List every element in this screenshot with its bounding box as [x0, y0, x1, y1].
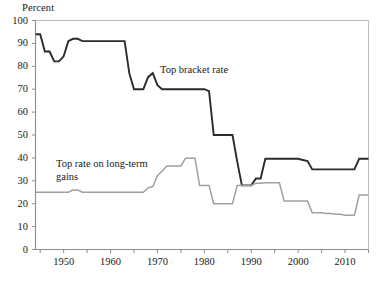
y-tick-label: 30	[2, 175, 28, 186]
y-tick-label: 50	[2, 129, 28, 140]
y-tick-label: 70	[2, 83, 28, 94]
y-tick-label: 10	[2, 221, 28, 232]
x-tick-label: 1960	[91, 256, 131, 267]
x-tick-label: 1990	[231, 256, 271, 267]
y-tick-label: 80	[2, 60, 28, 71]
y-tick-label: 90	[2, 37, 28, 48]
y-tick-label: 0	[2, 244, 28, 255]
y-tick-label: 60	[2, 106, 28, 117]
x-tick-label: 1980	[184, 256, 224, 267]
x-tick-label: 1950	[44, 256, 84, 267]
y-tick-label: 40	[2, 152, 28, 163]
y-tick-label: 20	[2, 198, 28, 209]
y-tick-label: 100	[2, 15, 28, 26]
annotation-top-bracket-rate: Top bracket rate	[160, 64, 228, 77]
chart-container: Percent 0102030405060708090100 195019601…	[0, 0, 387, 282]
x-tick-label: 2010	[325, 256, 365, 267]
annotation-top-rate-long-term-gains: Top rate on long-term gains	[56, 158, 148, 183]
x-tick-label: 1970	[137, 256, 177, 267]
x-tick-label: 2000	[278, 256, 318, 267]
y-axis-unit-label: Percent	[22, 2, 54, 14]
plot-area	[0, 0, 387, 282]
